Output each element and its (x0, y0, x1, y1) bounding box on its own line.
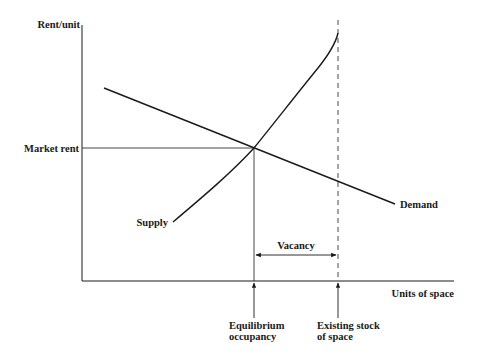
existing-stock-label-line1: Existing stock (317, 320, 380, 331)
supply-curve (173, 33, 338, 222)
market-rent-label: Market rent (24, 143, 79, 154)
x-axis-label: Units of space (392, 288, 455, 299)
equilibrium-occupancy-label-line1: Equilibrium (229, 320, 285, 331)
y-axis-label: Rent/unit (37, 19, 80, 30)
equilibrium-occupancy-label-line2: occupancy (229, 331, 277, 342)
vacancy-label: Vacancy (277, 240, 315, 251)
supply-label: Supply (136, 217, 168, 228)
rent-vacancy-diagram: Rent/unit Market rent Supply Demand Vaca… (0, 0, 479, 359)
demand-label: Demand (400, 199, 438, 210)
existing-stock-label-line2: of space (317, 331, 353, 342)
demand-curve (104, 88, 395, 204)
